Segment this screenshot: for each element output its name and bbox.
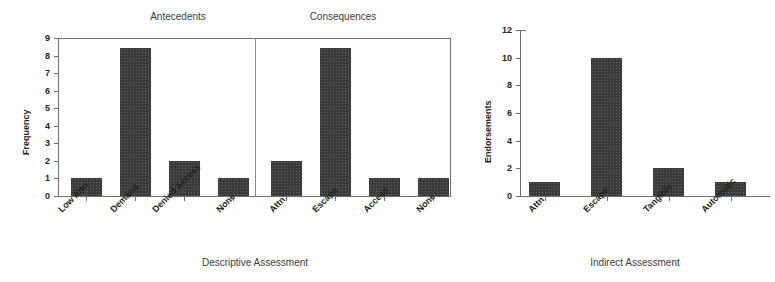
right-ytick-6 [516,113,521,114]
right-ytick-10 [516,58,521,59]
left-ytick-label-0: 0 [32,192,50,201]
left-xtick-0 [86,196,87,201]
right-ytick-4 [516,141,521,142]
left-xtick-label-attn: Attn [268,195,287,214]
right-ytick-label-8: 8 [492,81,512,90]
bar-none-consequence [418,178,449,196]
right-ytick-label-12: 12 [492,26,512,35]
group-title-consequences: Consequences [268,12,418,22]
left-ytick-4 [54,126,59,127]
group-title-antecedents: Antecedents [108,12,248,22]
right-plot-axis-x [520,196,770,197]
right-xtick-2 [669,196,670,201]
right-ytick-label-6: 6 [492,109,512,118]
left-ytick-label-6: 6 [32,87,50,96]
right-xtick-label-attn: Attn [527,195,546,214]
right-ytick-0 [516,196,521,197]
right-ytick-2 [516,168,521,169]
left-ytick-2 [54,161,59,162]
left-xtick-2 [184,196,185,201]
right-ytick-label-0: 0 [492,192,512,201]
left-plot-axis-y [58,38,59,197]
left-ytick-label-9: 9 [32,34,50,43]
left-ytick-label-3: 3 [32,139,50,148]
bar-attn-indirect [529,182,560,196]
figure-container: Antecedents Consequences Frequency 9 8 7… [0,0,775,282]
left-ytick-label-8: 8 [32,52,50,61]
right-xtick-1 [607,196,608,201]
left-ytick-1 [54,178,59,179]
left-xtick-1 [135,196,136,201]
left-x-axis-title: Descriptive Assessment [140,258,370,268]
left-ytick-5 [54,108,59,109]
right-ytick-label-4: 4 [492,137,512,146]
left-y-axis-title: Frequency [22,109,31,155]
bar-escape [320,48,351,196]
left-plot-frame-right [450,38,451,197]
bar-escape-indirect [591,58,622,196]
left-plot-group-divider [255,38,256,196]
bar-demand [120,48,151,196]
right-x-axis-title: Indirect Assessment [545,258,725,268]
left-ytick-7 [54,73,59,74]
bar-none-antecedent [218,178,249,196]
left-ytick-6 [54,91,59,92]
left-ytick-label-2: 2 [32,157,50,166]
left-ytick-3 [54,143,59,144]
right-xtick-3 [731,196,732,201]
left-xtick-5 [335,196,336,201]
left-ytick-label-7: 7 [32,69,50,78]
right-ytick-label-10: 10 [492,54,512,63]
right-ytick-8 [516,85,521,86]
left-ytick-label-5: 5 [32,104,50,113]
right-ytick-label-2: 2 [492,164,512,173]
left-ytick-9 [54,38,59,39]
left-ytick-0 [54,196,59,197]
right-chart-panel: Endorsements 12 10 8 6 4 2 0 Attn [460,0,775,282]
left-ytick-label-4: 4 [32,122,50,131]
left-chart-panel: Antecedents Consequences Frequency 9 8 7… [0,0,460,282]
right-ytick-12 [516,30,521,31]
left-ytick-8 [54,56,59,57]
bar-attn [271,161,302,196]
left-ytick-label-1: 1 [32,174,50,183]
